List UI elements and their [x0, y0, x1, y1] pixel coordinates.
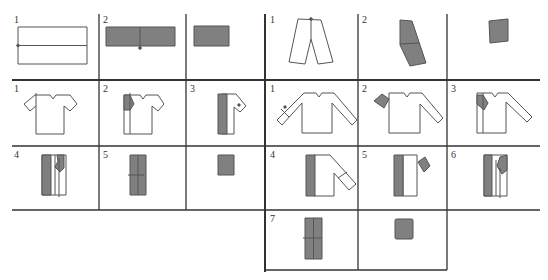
- tshirt-step-6-icon: [218, 155, 234, 175]
- towel-step-1-icon: [17, 27, 87, 64]
- towel-step-2-icon: [106, 27, 175, 49]
- longsleeve-step-3-icon: [477, 93, 532, 133]
- longsleeve-step-2-icon: [374, 93, 443, 133]
- tshirt-step-1-icon: [24, 93, 77, 134]
- tshirt-step-3-icon: [218, 94, 246, 134]
- tshirt-step-5-icon: [128, 155, 146, 195]
- longsleeve-step-6-icon: [484, 155, 507, 198]
- folding-diagram: 1 2 1 2 1 2 3 4 5 1 2 3 4 5 6 7: [0, 0, 548, 280]
- longsleeve-step-7-icon: [303, 218, 322, 259]
- pants-step-2-icon: [400, 20, 426, 66]
- longsleeve-step-4-icon: [306, 155, 356, 196]
- towel-step-3-icon: [194, 26, 229, 46]
- pants-step-3-icon: [489, 19, 508, 43]
- diagram-svg: [0, 0, 548, 280]
- longsleeve-step-8-icon: [395, 219, 413, 239]
- grid-lines: [12, 14, 540, 272]
- tshirt-step-2-icon: [124, 93, 164, 134]
- pants-step-1-icon: [289, 18, 333, 64]
- tshirt-step-4-icon: [42, 155, 66, 197]
- longsleeve-step-1-icon: [277, 93, 357, 133]
- longsleeve-step-5-icon: [394, 155, 430, 196]
